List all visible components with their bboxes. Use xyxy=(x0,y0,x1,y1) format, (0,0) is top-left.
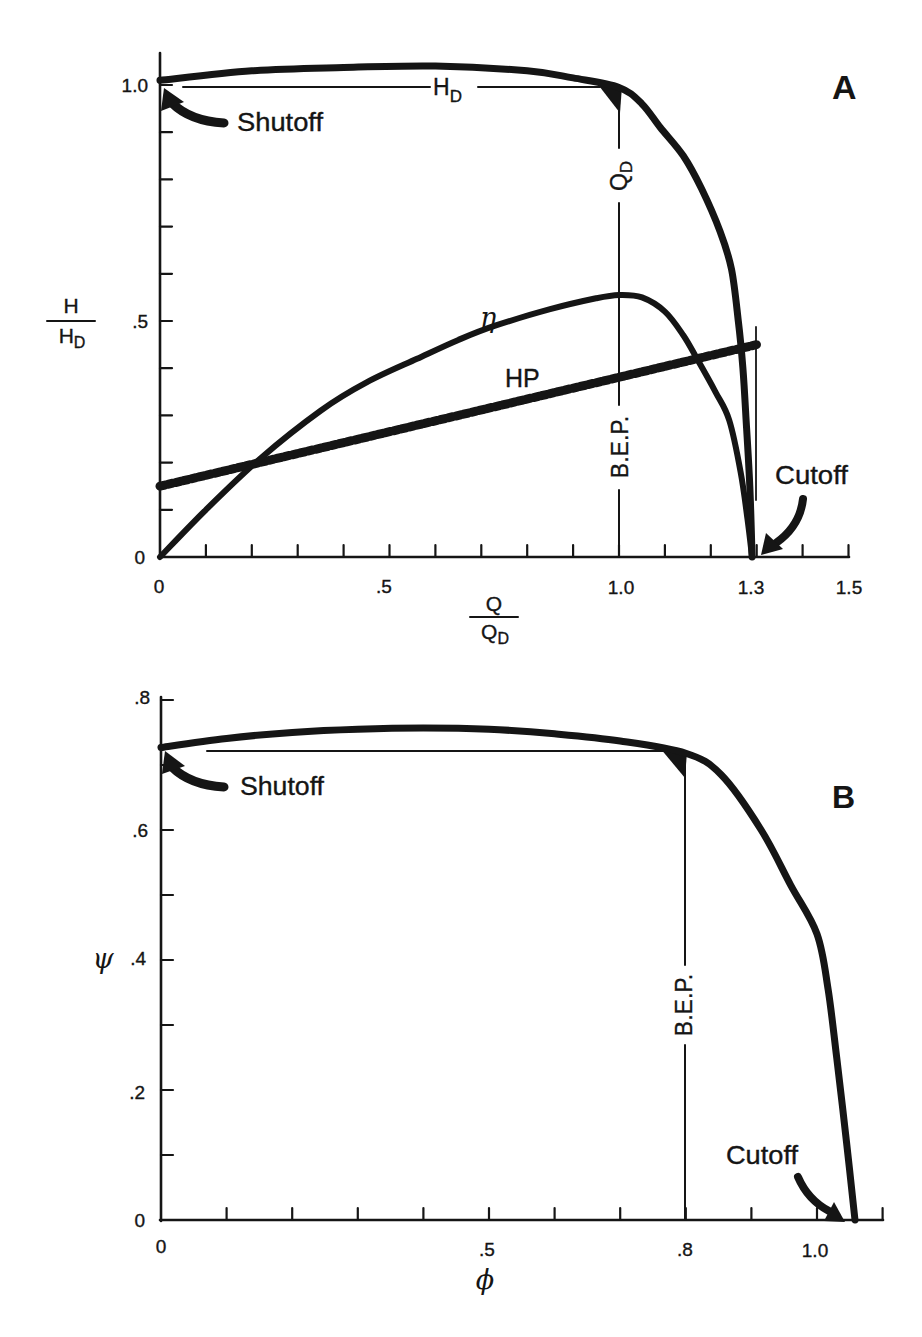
y-tick-label: .6 xyxy=(132,820,148,841)
x-tick-label: 0 xyxy=(154,576,165,597)
bep-label: B.E.P. xyxy=(607,416,633,478)
x-tick-label: 1.3 xyxy=(738,577,764,598)
panel-label: A xyxy=(832,68,857,106)
x-tick-label: 1.5 xyxy=(836,577,862,598)
y-tick-label: .2 xyxy=(129,1082,145,1103)
x-axis-label: ϕ xyxy=(476,1264,494,1295)
y-axis-label-numerator: H xyxy=(63,294,78,317)
figure: HD QD B.E.P. η HP Shutoff Cutoff A 1.0 .… xyxy=(0,0,922,1337)
y-tick-label: .8 xyxy=(134,687,150,708)
cutoff-label: Cutoff xyxy=(775,461,848,489)
horsepower-label: HP xyxy=(505,364,540,392)
shutoff-label: Shutoff xyxy=(240,772,324,800)
bep-label: B.E.P. xyxy=(671,974,697,1036)
x-tick-label: .5 xyxy=(376,576,392,597)
y-tick-label: 1.0 xyxy=(122,75,148,96)
cutoff-label: Cutoff xyxy=(726,1141,798,1169)
x-tick-label: 1.0 xyxy=(802,1240,828,1261)
y-tick-label: .4 xyxy=(130,948,146,969)
x-tick-label: 0 xyxy=(156,1236,167,1257)
y-tick-label: 0 xyxy=(134,1210,145,1231)
efficiency-label: η xyxy=(480,302,496,333)
y-tick-label: .5 xyxy=(132,311,148,332)
x-tick-label: .8 xyxy=(677,1239,693,1260)
x-axis-label-numerator: Q xyxy=(486,592,502,615)
x-tick-label: 1.0 xyxy=(608,577,634,598)
x-tick-label: .5 xyxy=(479,1239,495,1260)
shutoff-label: Shutoff xyxy=(237,108,323,136)
page-background xyxy=(0,0,922,1337)
y-tick-label: 0 xyxy=(134,547,145,568)
panel-label: B xyxy=(832,779,855,815)
y-axis-label: ψ xyxy=(92,943,114,974)
